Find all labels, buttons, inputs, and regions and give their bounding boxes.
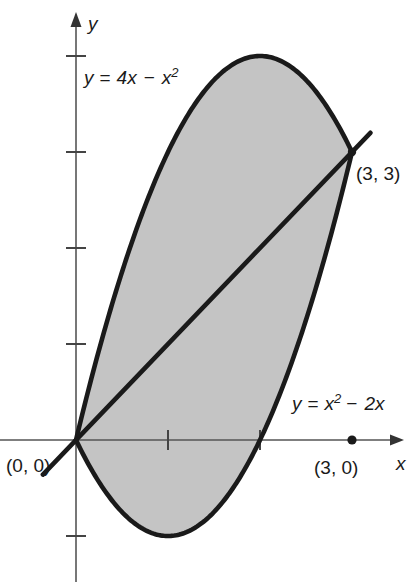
y-axis-arrow-icon — [71, 12, 82, 27]
label-upper-curve-equation: y=4x−x2 — [82, 65, 179, 88]
point-marker-3-3 — [348, 148, 356, 156]
label-x-axis-name: x — [395, 453, 407, 474]
point-marker-3-0 — [347, 435, 356, 444]
area-between-curves-figure: y=4x−x2 y=x2−2x (0, 0) (3, 3) (3, 0) x y — [0, 0, 418, 582]
label-lower-curve-equation: y=x2−2x — [290, 391, 386, 414]
label-upper-intersection-point: (3, 3) — [356, 163, 400, 184]
label-y-axis-name: y — [86, 13, 99, 34]
label-origin-point: (0, 0) — [6, 455, 50, 476]
x-axis-arrow-icon — [390, 435, 404, 446]
label-x-axis-point: (3, 0) — [314, 457, 358, 478]
